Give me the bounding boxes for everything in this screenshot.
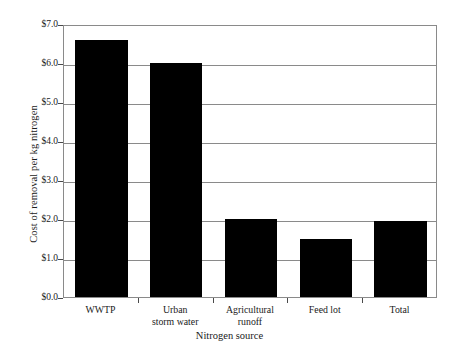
y-tick-label: $4.0 [12,137,58,147]
x-tick-mark [362,298,363,303]
y-tick-label: $0.0 [12,293,58,303]
y-tick-label: $7.0 [12,20,58,30]
y-tick-mark [58,298,63,299]
x-tick-mark [287,298,288,303]
bar [150,63,202,297]
y-tick-label: $5.0 [12,98,58,108]
bar-chart-figure: Cost of removal per kg nitrogen $0.0$1.0… [0,0,459,357]
x-category-label: Feed lot [287,304,362,316]
y-axis-title: Cost of removal per kg nitrogen [22,25,44,323]
x-axis-title: Nitrogen source [0,330,459,341]
bar [75,40,127,297]
bar [225,219,277,297]
x-category-label: Agricultural runoff [213,304,288,329]
x-category-label: Urban storm water [138,304,213,329]
y-tick-label: $3.0 [12,176,58,186]
bar [374,221,426,297]
x-category-label: Total [362,304,437,316]
x-tick-mark [138,298,139,303]
bar [300,239,352,298]
x-tick-mark [213,298,214,303]
x-category-label: WWTP [63,304,138,316]
y-tick-label: $1.0 [12,254,58,264]
plot-area [63,25,437,298]
y-tick-label: $6.0 [12,59,58,69]
y-tick-label: $2.0 [12,215,58,225]
